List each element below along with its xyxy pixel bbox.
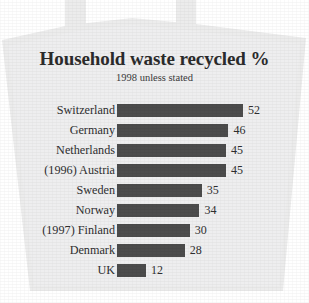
chart-title: Household waste recycled % [0, 48, 309, 70]
chart-subtitle: 1998 unless stated [0, 72, 309, 83]
bar-value-label: 35 [207, 183, 219, 198]
category-label: Switzerland [0, 103, 115, 118]
category-label: Netherlands [0, 143, 115, 158]
bar [117, 204, 199, 217]
recycling-bar-chart-figure: Household waste recycled % 1998 unless s… [0, 0, 309, 303]
bar-row-netherlands: Netherlands 45 [0, 142, 309, 162]
bar-track: 45 [117, 144, 309, 157]
bar-track: 28 [117, 244, 309, 257]
bar-row-finland: (1997) Finland 30 [0, 222, 309, 242]
bar-row-uk: UK 12 [0, 262, 309, 282]
bar [117, 104, 243, 117]
bar [117, 144, 226, 157]
bar-value-label: 45 [231, 163, 243, 178]
bar-track: 46 [117, 124, 309, 137]
bar [117, 184, 202, 197]
bar [117, 224, 190, 237]
bar-row-denmark: Denmark 28 [0, 242, 309, 262]
bar-value-label: 46 [233, 123, 245, 138]
chart-content: Household waste recycled % 1998 unless s… [0, 0, 309, 303]
bar-value-label: 30 [195, 223, 207, 238]
bar-value-label: 12 [151, 263, 163, 278]
bar [117, 264, 146, 277]
category-label: (1996) Austria [0, 163, 115, 178]
bar-row-austria: (1996) Austria 45 [0, 162, 309, 182]
category-label: Sweden [0, 183, 115, 198]
bar [117, 244, 185, 257]
bar-rows: Switzerland 52 Germany 46 Netherlands 45 [0, 102, 309, 282]
bar-track: 34 [117, 204, 309, 217]
bar-track: 30 [117, 224, 309, 237]
bar [117, 164, 226, 177]
bar-track: 35 [117, 184, 309, 197]
bar-row-norway: Norway 34 [0, 202, 309, 222]
bar-value-label: 28 [190, 243, 202, 258]
bar-track: 45 [117, 164, 309, 177]
category-label: (1997) Finland [0, 223, 115, 238]
bar-row-switzerland: Switzerland 52 [0, 102, 309, 122]
bar-row-germany: Germany 46 [0, 122, 309, 142]
bar [117, 124, 228, 137]
bar-value-label: 45 [231, 143, 243, 158]
bar-value-label: 52 [248, 103, 260, 118]
bar-row-sweden: Sweden 35 [0, 182, 309, 202]
category-label: Denmark [0, 243, 115, 258]
category-label: Germany [0, 123, 115, 138]
bar-track: 12 [117, 264, 309, 277]
category-label: Norway [0, 203, 115, 218]
bar-value-label: 34 [204, 203, 216, 218]
category-label: UK [0, 263, 115, 278]
bar-track: 52 [117, 104, 309, 117]
